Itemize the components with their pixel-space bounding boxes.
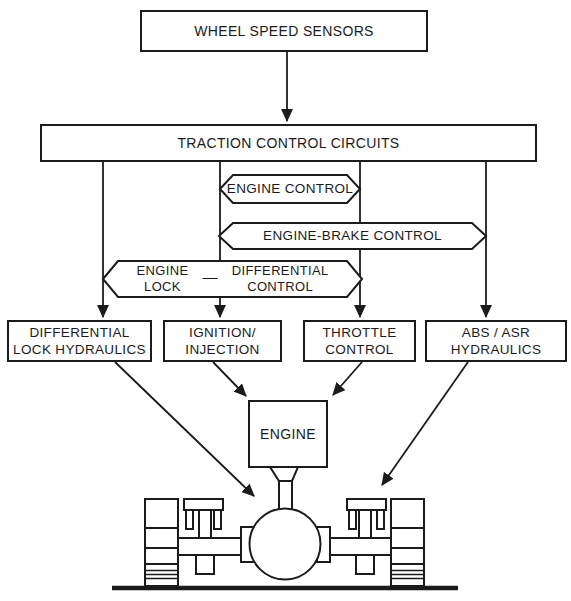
hexagon-label-right: DIFFERENTIAL CONTROL — [232, 263, 329, 295]
left-axle-shaft — [178, 538, 242, 555]
node-label: WHEEL SPEED SENSORS — [194, 23, 374, 40]
hexagon-label-right-line1: DIFFERENTIAL — [232, 263, 329, 279]
differential-housing — [250, 509, 321, 580]
hexagon-label-right-line2: CONTROL — [247, 279, 313, 295]
node-label-line1: ABS / ASR — [462, 324, 530, 341]
left-brake-caliper — [184, 499, 223, 538]
node-engine: ENGINE — [248, 400, 328, 468]
right-tire — [391, 499, 424, 586]
node-wheel-speed-sensors: WHEEL SPEED SENSORS — [140, 10, 428, 52]
right-axle-shaft — [330, 538, 391, 555]
node-engine-brake-control: ENGINE-BRAKE CONTROL — [219, 223, 486, 249]
node-label-line2: CONTROL — [325, 341, 393, 358]
driveshaft-coupling — [270, 467, 298, 481]
right-brake-caliper — [347, 499, 386, 538]
node-label-line1: THROTTLE — [322, 324, 396, 341]
node-differential-lock-hydraulics: DIFFERENTIAL LOCK HYDRAULICS — [7, 320, 152, 362]
diagram-lines-layer — [0, 0, 571, 601]
node-label: ENGINE — [260, 426, 316, 443]
hexagon-label-left-line2: LOCK — [144, 279, 181, 295]
node-label-line1: IGNITION/ — [189, 324, 256, 341]
arrow-ignition-to-engine — [213, 362, 246, 396]
node-engine-lock-differential-control: ENGINE LOCK — DIFFERENTIAL CONTROL — [103, 261, 362, 297]
node-abs-asr-hydraulics: ABS / ASR HYDRAULICS — [425, 320, 567, 362]
hexagon-label-separator: — — [202, 269, 217, 285]
node-engine-control: ENGINE CONTROL — [220, 175, 360, 203]
node-throttle-control: THROTTLE CONTROL — [303, 320, 416, 362]
hexagon-label: ENGINE-BRAKE CONTROL — [263, 228, 442, 244]
traction-control-diagram: WHEEL SPEED SENSORS TRACTION CONTROL CIR… — [0, 0, 571, 601]
node-traction-control-circuits: TRACTION CONTROL CIRCUITS — [40, 124, 537, 162]
left-caliper-lower-block — [196, 555, 214, 574]
node-label: TRACTION CONTROL CIRCUITS — [177, 135, 399, 152]
node-label-line2: INJECTION — [185, 341, 259, 358]
hexagon-label-left: ENGINE LOCK — [137, 263, 189, 295]
node-label-line1: DIFFERENTIAL — [29, 324, 129, 341]
hexagon-label: ENGINE CONTROL — [227, 181, 353, 197]
rear-axle-illustration — [112, 467, 458, 588]
right-caliper-lower-block — [356, 555, 374, 574]
left-tire — [145, 499, 178, 586]
driveshaft — [279, 481, 292, 510]
node-ignition-injection: IGNITION/ INJECTION — [163, 320, 282, 362]
node-label-line2: LOCK HYDRAULICS — [13, 341, 146, 358]
node-label-line2: HYDRAULICS — [451, 341, 542, 358]
hexagon-label-left-line1: ENGINE — [137, 263, 189, 279]
arrow-throttle-to-engine — [333, 362, 362, 395]
arrow-abs-to-brake — [382, 362, 468, 485]
